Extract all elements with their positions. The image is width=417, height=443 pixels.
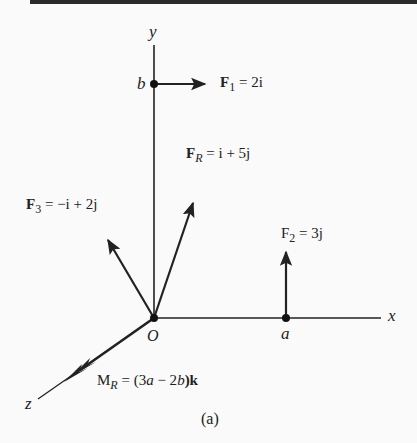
point-b bbox=[150, 80, 158, 88]
origin-label: O bbox=[147, 327, 159, 345]
x-axis-label: x bbox=[388, 306, 396, 326]
force-f3-arrow bbox=[108, 240, 154, 318]
point-a-label: a bbox=[281, 324, 290, 344]
moment-mr-label: MR = (3a − 2b)k bbox=[97, 372, 198, 393]
point-b-label: b bbox=[137, 74, 146, 94]
force-fr-arrow bbox=[154, 203, 193, 318]
force-fr-expr: = i + 5j bbox=[206, 145, 250, 161]
force-fr-label: FR = i + 5j bbox=[186, 145, 250, 166]
force-f2-expr: = 3j bbox=[299, 225, 323, 241]
y-axis-label: y bbox=[149, 22, 157, 42]
figure-caption: (a) bbox=[201, 410, 219, 428]
force-f2-label: F2 = 3j bbox=[281, 225, 323, 246]
force-f3-label: F3 = −i + 2j bbox=[26, 196, 97, 217]
force-f1-expr: = 2i bbox=[239, 74, 263, 90]
force-f3-expr: = −i + 2j bbox=[45, 196, 97, 212]
origin-point bbox=[150, 314, 158, 322]
force-system-diagram bbox=[0, 0, 417, 443]
z-axis-label: z bbox=[25, 394, 32, 414]
point-a bbox=[282, 314, 290, 322]
force-f1-label: F1 = 2i bbox=[220, 74, 263, 95]
